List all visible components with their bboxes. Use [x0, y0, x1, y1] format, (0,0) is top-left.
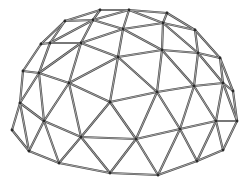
hub-node — [117, 56, 120, 59]
hub-node — [219, 57, 222, 60]
hub-node — [122, 28, 125, 31]
hub-node — [215, 120, 218, 123]
hub-node — [80, 42, 83, 45]
hub-node — [19, 102, 22, 105]
hub-node — [232, 90, 235, 93]
hub-node — [11, 129, 14, 132]
hub-node — [236, 120, 239, 123]
hub-node — [135, 138, 138, 141]
hub-node — [222, 82, 225, 85]
hub-node — [28, 150, 31, 153]
hub-node — [193, 85, 196, 88]
hub-node — [156, 91, 159, 94]
hub-node — [179, 128, 182, 131]
hub-node — [49, 42, 52, 45]
hub-node — [109, 101, 112, 104]
hub-node — [58, 162, 61, 165]
hub-node — [68, 82, 71, 85]
hub-node — [43, 120, 46, 123]
hub-node — [128, 9, 131, 12]
hub-node — [162, 22, 165, 25]
hub-node — [222, 149, 225, 152]
hub-node — [38, 72, 41, 75]
hub-node — [64, 20, 67, 23]
hub-node — [157, 174, 160, 177]
hub-node — [80, 136, 83, 139]
hub-node — [194, 29, 197, 32]
hub-node — [99, 9, 102, 12]
geodesic-dome-image — [0, 0, 251, 182]
hub-node — [109, 172, 112, 175]
hub-node — [22, 70, 25, 73]
hub-node — [40, 43, 43, 46]
hub-node — [161, 49, 164, 52]
hub-node — [92, 19, 95, 22]
hub-node — [166, 12, 169, 15]
hub-node — [197, 52, 200, 55]
hub-node — [196, 160, 199, 163]
